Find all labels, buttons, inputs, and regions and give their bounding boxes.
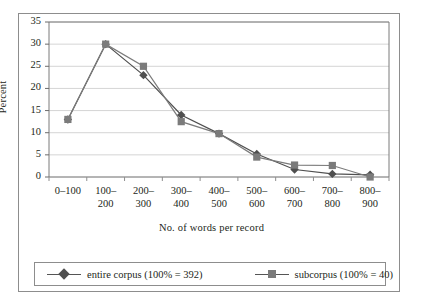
square-marker-icon xyxy=(255,268,289,280)
data-point-square xyxy=(367,173,374,180)
legend-entry-subcorpus: subcorpus (100% = 40) xyxy=(255,268,393,280)
legend-entry-entire-corpus: entire corpus (100% = 392) xyxy=(47,268,203,280)
plot-area xyxy=(0,0,423,307)
axis-tick-marks xyxy=(45,22,389,181)
diamond-marker-icon xyxy=(47,268,81,280)
plot-frame xyxy=(49,22,389,177)
data-point-square xyxy=(64,116,71,123)
chart-figure: Percent No. of words per record 05101520… xyxy=(0,0,423,307)
legend-label-subcorpus: subcorpus (100% = 40) xyxy=(295,269,393,280)
data-point-square xyxy=(102,41,109,48)
data-point-square xyxy=(178,118,185,125)
data-point-square xyxy=(329,162,336,169)
gridlines xyxy=(49,22,389,177)
chart-legend: entire corpus (100% = 392) subcorpus (10… xyxy=(34,262,386,286)
data-point-square xyxy=(291,161,298,168)
data-point-square xyxy=(215,130,222,137)
data-point-square xyxy=(253,153,260,160)
data-point-square xyxy=(140,63,147,70)
legend-label-entire-corpus: entire corpus (100% = 392) xyxy=(87,269,203,280)
